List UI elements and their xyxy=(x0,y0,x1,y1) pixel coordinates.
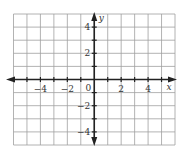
arrow-left-icon xyxy=(6,77,15,83)
y-tick-label: −4 xyxy=(77,127,91,137)
x-tick-label: 4 xyxy=(145,84,151,94)
y-tick-label: 4 xyxy=(85,22,91,32)
origin-label: 0 xyxy=(85,83,91,93)
x-tick-label: −4 xyxy=(34,84,48,94)
coordinate-grid: −4−22442−2−40xy xyxy=(0,0,186,154)
x-tick-label: 2 xyxy=(118,84,124,94)
x-tick-label: −2 xyxy=(61,84,74,94)
tick-labels: −4−22442−2−40xy xyxy=(34,13,172,137)
arrow-up-icon xyxy=(91,12,97,21)
axes xyxy=(6,12,177,146)
y-tick-label: −2 xyxy=(77,101,90,111)
y-axis-label: y xyxy=(98,13,105,23)
y-tick-label: 2 xyxy=(85,48,91,58)
x-axis-label: x xyxy=(166,82,171,92)
